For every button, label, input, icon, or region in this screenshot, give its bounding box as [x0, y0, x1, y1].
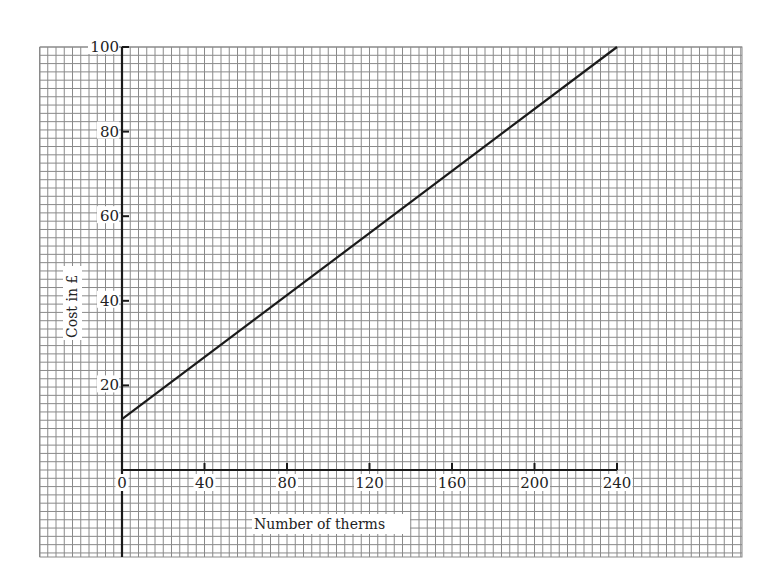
y-axis-title: Cost in £ — [64, 275, 80, 338]
x-tick-label: 80 — [277, 474, 296, 492]
y-tick-label: 100 — [90, 38, 119, 56]
y-tick-label: 20 — [100, 376, 119, 394]
x-tick-label: 40 — [195, 474, 214, 492]
x-tick-label: 160 — [438, 474, 467, 492]
x-tick-label: 0 — [117, 474, 127, 492]
x-tick-label: 240 — [603, 474, 632, 492]
y-tick-label: 40 — [100, 292, 119, 310]
y-axis-title-group: Cost in £ — [63, 266, 82, 340]
y-tick-label: 60 — [100, 207, 119, 225]
y-tick-label: 80 — [100, 123, 119, 141]
x-tick-label: 120 — [355, 474, 384, 492]
graph-paper-grid — [40, 47, 743, 557]
x-axis-title: Number of therms — [254, 516, 385, 532]
line-chart: 0408012016020024020406080100 Number of t… — [0, 0, 784, 586]
x-tick-label: 200 — [520, 474, 549, 492]
x-axis-title-group: Number of therms — [252, 514, 410, 534]
